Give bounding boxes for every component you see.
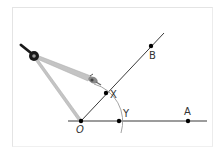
label-b: B [149, 51, 156, 61]
compass-icon [21, 45, 101, 120]
label-o: O [76, 125, 84, 135]
point-o [79, 119, 83, 123]
label-a: A [184, 107, 191, 117]
point-y [117, 119, 121, 123]
point-b [149, 44, 153, 48]
label-y: Y [123, 109, 129, 119]
label-x: X [110, 90, 117, 100]
construction-canvas [0, 0, 220, 152]
point-x [104, 91, 108, 95]
construction-arc [94, 84, 123, 133]
point-a [186, 119, 190, 123]
